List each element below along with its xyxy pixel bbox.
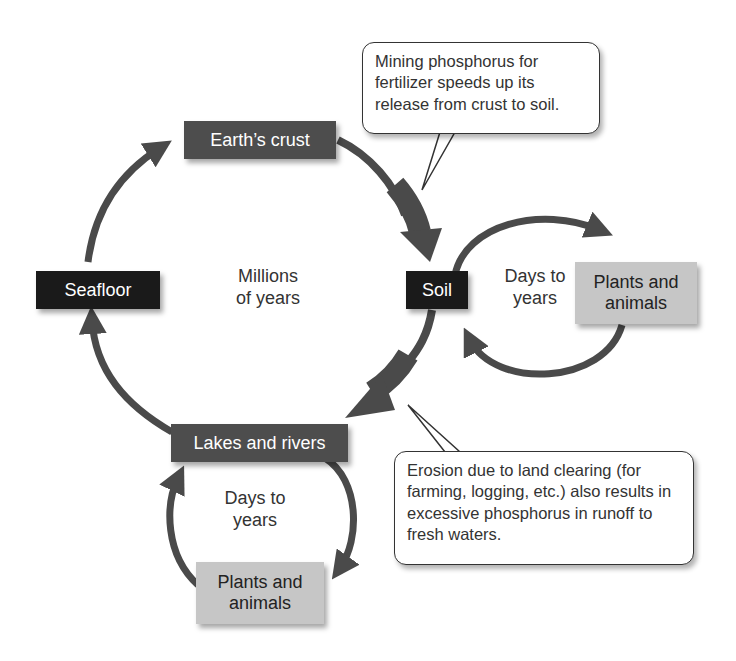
callout-mining: Mining phosphorus for fertilizer speeds …	[362, 42, 600, 134]
main-cycle-line1: Millions	[218, 266, 318, 288]
arrow-plants-to-lakes	[170, 478, 198, 585]
soil-cycle-line2: years	[490, 288, 580, 310]
node-earths-crust: Earth’s crust	[184, 121, 336, 159]
soil-cycle-line1: Days to	[490, 266, 580, 288]
node-lakes-and-rivers: Lakes and rivers	[171, 424, 348, 462]
node-seafloor-label: Seafloor	[64, 280, 131, 301]
plants-animals-right-line2: animals	[605, 293, 667, 314]
node-lakes-and-rivers-label: Lakes and rivers	[193, 433, 325, 454]
node-soil: Soil	[406, 271, 468, 309]
main-cycle-line2: of years	[218, 288, 318, 310]
arrow-plants-to-soil	[470, 325, 622, 374]
arrow-lakes-to-plants	[325, 458, 354, 568]
callout-erosion-text: Erosion due to land clearing (for farmin…	[407, 461, 671, 543]
callout-mining-text: Mining phosphorus for fertilizer speeds …	[375, 52, 559, 113]
callout-erosion: Erosion due to land clearing (for farmin…	[394, 451, 694, 565]
arrow-crust-to-soil	[338, 140, 405, 215]
node-soil-label: Soil	[422, 280, 452, 301]
lakes-cycle-timescale: Days to years	[210, 488, 300, 531]
node-earths-crust-label: Earth’s crust	[210, 130, 310, 151]
soil-cycle-timescale: Days to years	[490, 266, 580, 309]
phosphorus-cycle-diagram: Earth’s crust Seafloor Soil Lakes and ri…	[0, 0, 736, 661]
lakes-cycle-line2: years	[210, 510, 300, 532]
node-plants-animals-right: Plants and animals	[575, 262, 697, 324]
plants-animals-bottom-line2: animals	[229, 593, 291, 614]
lakes-cycle-line1: Days to	[210, 488, 300, 510]
plants-animals-bottom-line1: Plants and	[217, 572, 302, 593]
plants-animals-right-line1: Plants and	[593, 272, 678, 293]
main-cycle-timescale: Millions of years	[218, 266, 318, 309]
node-plants-animals-bottom: Plants and animals	[196, 562, 324, 624]
arrow-lakes-to-seafloor	[92, 320, 172, 432]
arrow-seafloor-to-crust	[88, 148, 160, 262]
node-seafloor: Seafloor	[36, 271, 160, 309]
